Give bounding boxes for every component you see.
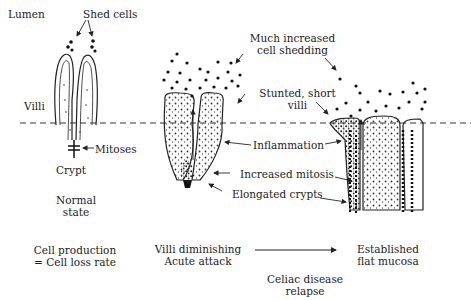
label-lumen: Lumen — [8, 8, 45, 20]
shed-cells-normal — [66, 39, 96, 52]
elongated-crypts-pointer-1 — [209, 184, 222, 191]
acute-villi — [164, 93, 223, 188]
inflammation-pointer-2 — [325, 141, 341, 144]
label-elongated-crypts: Elongated crypts — [232, 188, 323, 200]
shed-cells-acute — [162, 52, 241, 97]
label-much-increased-shedding: Much increased cell shedding — [240, 32, 345, 56]
acute-attack-caption: Villi diminishing Acute attack — [148, 243, 248, 267]
label-villi: Villi — [24, 100, 45, 112]
normal-state-caption: Cell production = Cell loss rate — [20, 244, 130, 268]
much-increased-pointer-2 — [325, 58, 336, 70]
shed-cells-flat — [335, 77, 426, 117]
normal-mitoses — [68, 140, 80, 158]
flat-mucosa — [330, 116, 423, 214]
inflammation-pointer-1 — [225, 142, 251, 145]
celiac-relapse-caption: Celiac disease relapse — [250, 273, 360, 297]
label-shed-cells: Shed cells — [83, 8, 137, 20]
shed-cells-pointer-1 — [77, 20, 86, 36]
label-inflammation: Inflammation — [253, 139, 324, 151]
label-crypt: Crypt — [56, 164, 86, 176]
label-mitoses: Mitoses — [95, 143, 137, 155]
normal-state-title: Normal state — [56, 194, 96, 218]
label-increased-mitosis: Increased mitosis — [240, 168, 334, 180]
stunted-pointer-1 — [238, 94, 245, 103]
elongated-crypts-pointer-2 — [320, 198, 346, 202]
normal-villi — [55, 54, 98, 140]
flat-mucosa-caption: Established flat mucosa — [348, 243, 428, 267]
shed-cells-pointer-2 — [88, 20, 92, 36]
label-stunted-villi: Stunted, short villi — [250, 87, 345, 111]
